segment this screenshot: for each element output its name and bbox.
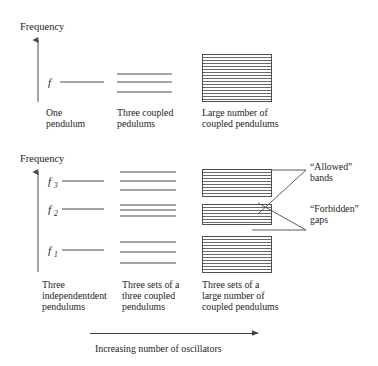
bottom-caption-3-line3: coupled pendulums — [202, 301, 279, 312]
bottom-column-three-sets-three-coupled — [120, 172, 176, 263]
bottom-column-three-independent: f 3 f 2 f 1 — [48, 175, 104, 259]
level-group-f1 — [120, 242, 176, 263]
band-f2 — [202, 204, 271, 224]
top-caption-3-line2: coupled pendulums — [202, 118, 279, 129]
callout-forbidden-gaps: “Forbidden” gaps — [310, 203, 359, 225]
level-symbol-sub: 3 — [53, 181, 58, 190]
bottom-caption-1-line2: independentdent — [42, 290, 107, 301]
band-f1 — [202, 236, 271, 272]
bottom-caption-2-line3: pendulums — [122, 301, 165, 312]
top-panel: Frequency f — [20, 21, 279, 129]
top-column-large-number-band — [202, 54, 271, 101]
leader-forbidden-diagonal — [258, 203, 306, 230]
top-column-one-pendulum: f — [48, 76, 104, 88]
level-label-f3: f 3 — [48, 175, 58, 190]
level-symbol-base: f — [48, 203, 53, 215]
bottom-caption-2-line2: three coupled — [122, 290, 175, 301]
level-label-f2: f 2 — [48, 203, 58, 218]
bottom-caption-3-line1: Three sets of a — [202, 279, 260, 290]
bottom-caption-2-line1: Three sets of a — [122, 279, 180, 290]
bottom-panel: Frequency f 3 f 2 f 1 — [20, 153, 359, 354]
callout-allowed-line2: bands — [310, 172, 333, 183]
bottom-caption-1-line1: Three — [42, 279, 65, 290]
callout-leader-lines — [252, 170, 306, 230]
top-caption-2-line2: pedulums — [117, 118, 155, 129]
bottom-caption-1-line3: pendulums — [42, 301, 85, 312]
level-label-f1: f 1 — [48, 244, 58, 259]
top-caption-1-line2: pendulum — [46, 118, 86, 129]
top-axis-label: Frequency — [20, 21, 65, 32]
top-captions: One pendulum Three coupled pedulums Larg… — [46, 107, 279, 129]
level-group-f3 — [120, 172, 176, 190]
band-rules — [202, 57, 271, 99]
band-f3 — [202, 169, 271, 196]
band-formation-diagram: Frequency f — [0, 0, 378, 366]
top-caption-3-line1: Large number of — [202, 107, 268, 118]
callout-allowed-bands: “Allowed” bands — [310, 161, 352, 183]
callout-forbidden-line1: “Forbidden” — [310, 203, 359, 214]
bottom-caption-3-line2: large number of — [202, 290, 265, 301]
level-symbol-base: f — [48, 175, 53, 187]
callout-allowed-line1: “Allowed” — [310, 161, 352, 172]
bottom-axis-label: Frequency — [20, 153, 65, 164]
top-caption-1-line1: One — [46, 107, 63, 118]
bottom-column-three-bands — [202, 169, 271, 272]
bottom-captions: Three independentdent pendulums Three se… — [42, 279, 279, 312]
level-group-f2 — [120, 205, 176, 216]
band-outline — [202, 54, 271, 101]
level-symbol-base: f — [48, 244, 53, 256]
top-caption-2-line1: Three coupled — [117, 107, 173, 118]
increasing-oscillators-caption: Increasing number of oscillators — [95, 343, 222, 354]
top-column-three-coupled — [117, 74, 172, 92]
level-symbol-sub: 1 — [54, 250, 58, 259]
level-symbol-sub: 2 — [54, 209, 58, 218]
callout-forbidden-line2: gaps — [310, 214, 328, 225]
top-level-symbol-f: f — [48, 76, 53, 88]
